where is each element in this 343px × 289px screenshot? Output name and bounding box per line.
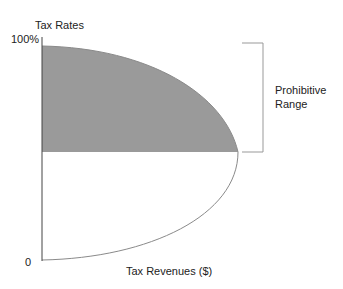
prohibitive-label-line2: Range [275,98,307,110]
x-axis-title: Tax Revenues ($) [126,265,212,277]
y-axis-title: Tax Rates [35,19,84,31]
prohibitive-bracket [242,43,263,152]
y-tick-0: 0 [25,256,31,268]
prohibitive-label-line1: Prohibitive [275,84,326,96]
y-tick-100: 100% [11,33,39,45]
chart-canvas [0,0,343,289]
